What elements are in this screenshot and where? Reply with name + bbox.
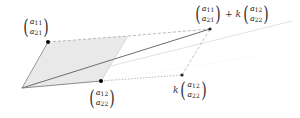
left-paren: ( <box>181 80 186 100</box>
point-sum <box>208 27 211 30</box>
entry-top-sub: 12 <box>192 82 200 89</box>
right-paren: ) <box>263 4 268 24</box>
point-k-a2 <box>180 73 183 76</box>
scalar-k: k <box>173 86 178 95</box>
entry-bottom-sub: 22 <box>192 92 200 99</box>
vector-column: a11 a21 <box>30 17 42 37</box>
plus-operator: + <box>225 10 233 19</box>
vector-column: a11 a21 <box>202 4 214 24</box>
point-a1 <box>46 40 50 44</box>
right-paren: ) <box>43 17 48 37</box>
vector-column: a12 a22 <box>96 88 108 108</box>
point-a2 <box>99 79 103 83</box>
right-paren: ) <box>215 4 220 24</box>
left-paren: ( <box>89 88 94 108</box>
entry-top-sub: 12 <box>255 6 263 13</box>
vector-column: a12 a22 <box>187 80 199 100</box>
dashed-ka2-to-sum <box>182 29 210 75</box>
entry-bottom-sub: 21 <box>35 29 43 36</box>
vector-column: a12 a22 <box>250 4 262 24</box>
left-paren: ( <box>195 4 200 24</box>
left-paren: ( <box>243 4 248 24</box>
entry-top-sub: 11 <box>207 6 215 13</box>
entry-top-sub: 11 <box>35 19 43 26</box>
dotted-a2-to-ka2 <box>101 75 182 81</box>
entry-bottom-sub: 22 <box>101 100 109 107</box>
label-a2: ( a12 a22 ) <box>88 88 116 108</box>
entry-bottom-sub: 21 <box>207 16 215 23</box>
right-paren: ) <box>201 80 206 100</box>
left-paren: ( <box>23 17 28 37</box>
label-sum: ( a11 a21 ) + k ( a12 a22 ) <box>194 4 270 24</box>
entry-bottom-sub: 22 <box>255 16 263 23</box>
scalar-k: k <box>236 10 241 19</box>
entry-top-sub: 12 <box>101 90 109 97</box>
right-paren: ) <box>109 88 114 108</box>
label-a1: ( a11 a21 ) <box>22 17 50 37</box>
label-k-a2: k ( a12 a22 ) <box>173 80 208 100</box>
